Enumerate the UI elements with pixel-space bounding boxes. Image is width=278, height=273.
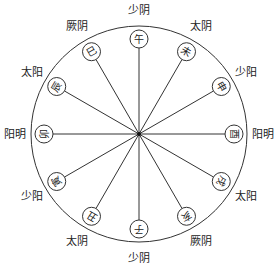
- spoke-line: [139, 91, 213, 134]
- branch-node: 亥: [178, 207, 196, 225]
- qi-label: 少阴: [128, 4, 150, 17]
- branch-node: 午: [130, 30, 148, 48]
- branch-node: 巳: [83, 43, 101, 61]
- branch-node: 丑: [83, 207, 101, 225]
- branch-char: 卯: [39, 129, 50, 139]
- qi-label: 厥阴: [190, 235, 212, 248]
- wheel-svg: 午未申酉戌亥子丑寅卯辰巳 少阴太阴少阳阳明太阳厥阴少阴太阴少阳阳明太阳厥阴: [0, 0, 278, 273]
- spoke-line: [139, 60, 182, 134]
- branch-char: 午: [134, 33, 144, 45]
- spoke-line: [139, 134, 213, 177]
- branch-char: 酉: [229, 129, 240, 139]
- qi-label: 太阴: [190, 20, 212, 33]
- qi-label: 阳明: [252, 128, 274, 141]
- branch-node: 辰: [48, 78, 66, 96]
- spoke-line: [65, 134, 139, 177]
- branch-node: 戌: [212, 173, 230, 191]
- qi-label: 少阴: [128, 252, 150, 265]
- qi-label: 阳明: [4, 128, 26, 141]
- branch-node: 卯: [35, 125, 53, 143]
- branch-node: 未: [178, 43, 196, 61]
- branch-node: 酉: [225, 125, 243, 143]
- branch-node: 子: [130, 220, 148, 238]
- spoke-line: [96, 134, 139, 208]
- branch-node: 申: [212, 78, 230, 96]
- center-hub: [137, 132, 141, 136]
- qi-label: 太阳: [21, 66, 43, 79]
- qi-label: 厥阴: [66, 20, 88, 33]
- branch-qi-wheel-diagram: 午未申酉戌亥子丑寅卯辰巳 少阴太阴少阳阳明太阳厥阴少阴太阴少阳阳明太阳厥阴: [0, 0, 278, 273]
- qi-label: 少阳: [21, 190, 43, 203]
- branch-char: 子: [134, 224, 144, 235]
- spoke-line: [65, 91, 139, 134]
- qi-label: 少阳: [235, 66, 257, 79]
- qi-label: 太阳: [235, 190, 257, 203]
- spoke-line: [96, 60, 139, 134]
- spoke-line: [139, 134, 182, 208]
- branch-node: 寅: [48, 173, 66, 191]
- qi-label: 太阴: [66, 235, 88, 248]
